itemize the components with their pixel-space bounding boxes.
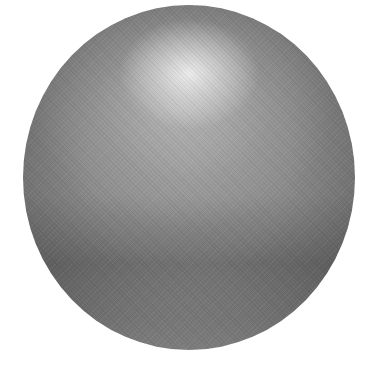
gray-sphere [23,5,355,350]
sphere-texture [23,5,355,350]
